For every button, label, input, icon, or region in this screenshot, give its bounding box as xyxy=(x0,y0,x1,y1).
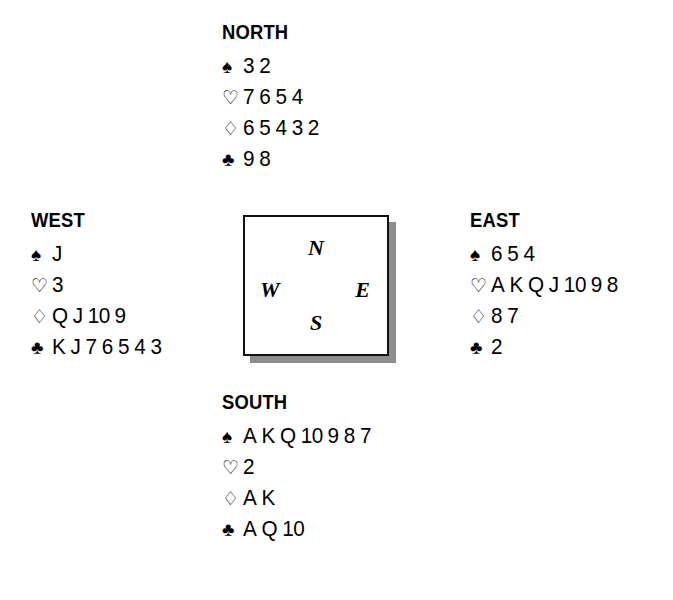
hand-south-label: SOUTH xyxy=(222,390,367,414)
card-rank: 9 xyxy=(243,143,255,174)
card-rank: 10 xyxy=(88,300,110,331)
card-rank: A xyxy=(491,269,505,300)
hand-west-hearts-ranks: 3 xyxy=(52,269,64,300)
card-rank: 4 xyxy=(292,81,304,112)
card-rank: J xyxy=(71,331,81,362)
card-rank: 5 xyxy=(275,81,287,112)
card-rank: Q xyxy=(52,300,68,331)
compass-box: N W E S xyxy=(243,215,389,356)
card-rank: 8 xyxy=(344,420,356,451)
hand-north-clubs-ranks: 98 xyxy=(243,143,271,174)
club-icon: ♣ xyxy=(470,332,491,363)
card-rank: J xyxy=(549,269,559,300)
hand-south: SOUTH ♠ AKQ10987 ♡ 2 ♢ AK ♣ AQ10 xyxy=(222,390,380,544)
hand-north-hearts-ranks: 7654 xyxy=(243,81,303,112)
hand-north-spades-ranks: 32 xyxy=(243,50,271,81)
card-rank: 2 xyxy=(259,50,271,81)
card-rank: 9 xyxy=(115,300,127,331)
hand-west: WEST ♠ J ♡ 3 ♢ QJ109 ♣ KJ76543 xyxy=(31,208,169,362)
card-rank: 10 xyxy=(564,269,586,300)
card-rank: 6 xyxy=(491,238,503,269)
hand-south-spades-row: ♠ AKQ10987 xyxy=(222,420,380,451)
card-rank: 3 xyxy=(150,331,162,362)
hand-west-diamonds-row: ♢ QJ109 xyxy=(31,300,169,331)
hand-west-hearts-row: ♡ 3 xyxy=(31,269,169,300)
hand-west-clubs-row: ♣ KJ76543 xyxy=(31,331,169,362)
hand-west-spades-row: ♠ J xyxy=(31,238,169,269)
hand-south-hearts-ranks: 2 xyxy=(243,451,255,482)
heart-icon: ♡ xyxy=(222,452,243,483)
hand-east-hearts-row: ♡ AKQJ1098 xyxy=(470,269,626,300)
compass-box-face: N W E S xyxy=(243,215,389,356)
spade-icon: ♠ xyxy=(222,51,243,82)
card-rank: Q xyxy=(528,269,544,300)
card-rank: 2 xyxy=(308,112,320,143)
hand-east-clubs-ranks: 2 xyxy=(491,331,503,362)
hand-west-diamonds-ranks: QJ109 xyxy=(52,300,126,331)
card-rank: A xyxy=(243,513,257,544)
card-rank: K xyxy=(52,331,66,362)
card-rank: 6 xyxy=(102,331,114,362)
hand-east-spades-ranks: 654 xyxy=(491,238,535,269)
hand-south-spades-ranks: AKQ10987 xyxy=(243,420,372,451)
hand-west-label: WEST xyxy=(31,208,158,232)
card-rank: 8 xyxy=(491,300,503,331)
card-rank: 4 xyxy=(523,238,535,269)
card-rank: 7 xyxy=(360,420,372,451)
card-rank: 3 xyxy=(243,50,255,81)
card-rank: 7 xyxy=(243,81,255,112)
card-rank: K xyxy=(262,420,276,451)
compass-north-letter: N xyxy=(245,237,387,259)
hand-west-clubs-ranks: KJ76543 xyxy=(52,331,162,362)
hand-north-spades-row: ♠ 32 xyxy=(222,50,324,81)
card-rank: 10 xyxy=(282,513,304,544)
hand-east-diamonds-ranks: 87 xyxy=(491,300,519,331)
card-rank: 8 xyxy=(607,269,619,300)
card-rank: 7 xyxy=(507,300,519,331)
hand-north: NORTH ♠ 32 ♡ 7654 ♢ 65432 ♣ 98 xyxy=(222,20,324,174)
spade-icon: ♠ xyxy=(31,239,52,270)
card-rank: 7 xyxy=(86,331,98,362)
card-rank: A xyxy=(243,420,257,451)
hand-north-diamonds-ranks: 65432 xyxy=(243,112,319,143)
card-rank: 9 xyxy=(591,269,603,300)
hand-south-clubs-row: ♣ AQ10 xyxy=(222,513,380,544)
hand-north-diamonds-row: ♢ 65432 xyxy=(222,112,324,143)
club-icon: ♣ xyxy=(222,144,243,175)
club-icon: ♣ xyxy=(31,332,52,363)
hand-west-spades-ranks: J xyxy=(52,238,62,269)
hand-east-spades-row: ♠ 654 xyxy=(470,238,626,269)
spade-icon: ♠ xyxy=(470,239,491,270)
heart-icon: ♡ xyxy=(31,270,52,301)
card-rank: A xyxy=(243,482,257,513)
compass-east-letter: E xyxy=(355,279,370,301)
spade-icon: ♠ xyxy=(222,421,243,452)
diamond-icon: ♢ xyxy=(222,483,243,514)
hand-east-clubs-row: ♣ 2 xyxy=(470,331,626,362)
compass-west-letter: W xyxy=(260,279,280,301)
hand-east: EAST ♠ 654 ♡ AKQJ1098 ♢ 87 ♣ 2 xyxy=(470,208,626,362)
hand-east-diamonds-row: ♢ 87 xyxy=(470,300,626,331)
card-rank: Q xyxy=(280,420,296,451)
card-rank: 2 xyxy=(491,331,503,362)
heart-icon: ♡ xyxy=(470,270,491,301)
card-rank: 3 xyxy=(292,112,304,143)
card-rank: 6 xyxy=(243,112,255,143)
card-rank: 9 xyxy=(328,420,340,451)
card-rank: J xyxy=(52,238,62,269)
card-rank: K xyxy=(510,269,524,300)
card-rank: 2 xyxy=(243,451,255,482)
card-rank: 6 xyxy=(259,81,271,112)
card-rank: Q xyxy=(262,513,278,544)
hand-east-label: EAST xyxy=(470,208,614,232)
hand-south-diamonds-ranks: AK xyxy=(243,482,275,513)
card-rank: 8 xyxy=(259,143,271,174)
diamond-icon: ♢ xyxy=(31,301,52,332)
card-rank: 10 xyxy=(301,420,323,451)
card-rank: 5 xyxy=(118,331,130,362)
compass-south-letter: S xyxy=(245,312,387,334)
club-icon: ♣ xyxy=(222,514,243,545)
heart-icon: ♡ xyxy=(222,82,243,113)
diamond-icon: ♢ xyxy=(470,301,491,332)
card-rank: 5 xyxy=(259,112,271,143)
